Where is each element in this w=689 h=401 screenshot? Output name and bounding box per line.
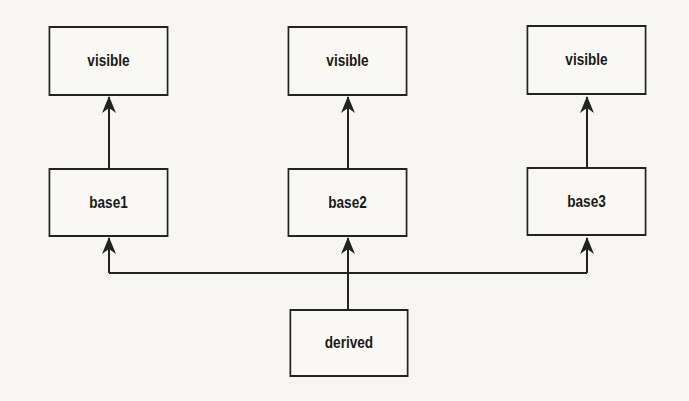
node-label: base3 bbox=[567, 193, 606, 211]
node-visible-3: visible bbox=[527, 25, 647, 95]
node-label: derived bbox=[325, 334, 373, 352]
node-derived: derived bbox=[290, 309, 409, 377]
node-label: visible bbox=[326, 52, 368, 70]
node-base2: base2 bbox=[288, 168, 408, 237]
node-label: visible bbox=[565, 51, 607, 69]
node-base1: base1 bbox=[49, 168, 169, 237]
node-visible-1: visible bbox=[49, 26, 169, 96]
node-label: visible bbox=[87, 52, 129, 70]
node-base3: base3 bbox=[527, 167, 647, 236]
node-label: base2 bbox=[328, 194, 367, 212]
node-visible-2: visible bbox=[288, 26, 408, 96]
node-label: base1 bbox=[89, 194, 128, 212]
